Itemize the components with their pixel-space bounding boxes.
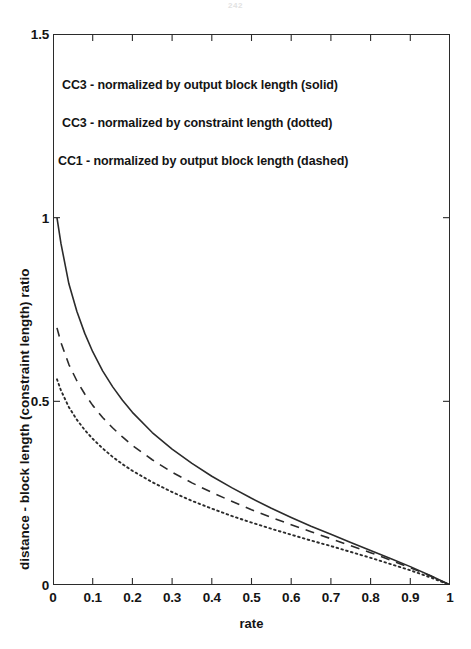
x-tick-label: 0.7 [322, 590, 340, 605]
x-tick-label: 0.8 [362, 590, 380, 605]
x-axis-title: rate [53, 616, 450, 631]
x-tick-label: 0.4 [203, 590, 221, 605]
x-tick-label: 0.5 [242, 590, 260, 605]
x-tick-label: 0.1 [84, 590, 102, 605]
x-tick-label: 0.6 [282, 590, 300, 605]
y-tick-label: 0.5 [31, 394, 49, 409]
series-line-dotted [57, 379, 450, 585]
y-tick-label: 0 [42, 578, 49, 593]
x-tick-label: 0.9 [401, 590, 419, 605]
y-axis-title: distance - block length (constraint leng… [17, 268, 32, 570]
figure-container: 242 00.10.20.30.40.50.60.70.80.91 00.511… [0, 0, 471, 649]
legend-annotation-solid: CC3 - normalized by output block length … [62, 78, 338, 92]
x-tick-label: 0.2 [123, 590, 141, 605]
legend-annotation-dashed: CC1 - normalized by output block length … [58, 154, 348, 168]
legend-annotation-dotted: CC3 - normalized by constraint length (d… [62, 116, 332, 130]
x-tick-label: 0.3 [163, 590, 181, 605]
series-line-solid [57, 218, 450, 585]
page-number-artifact: 242 [0, 1, 471, 10]
x-tick-label: 0 [49, 590, 56, 605]
x-tick-label: 1 [446, 590, 453, 605]
y-tick-label: 1.5 [31, 27, 49, 42]
y-tick-label: 1 [42, 210, 49, 225]
series-line-dashed [57, 328, 450, 585]
